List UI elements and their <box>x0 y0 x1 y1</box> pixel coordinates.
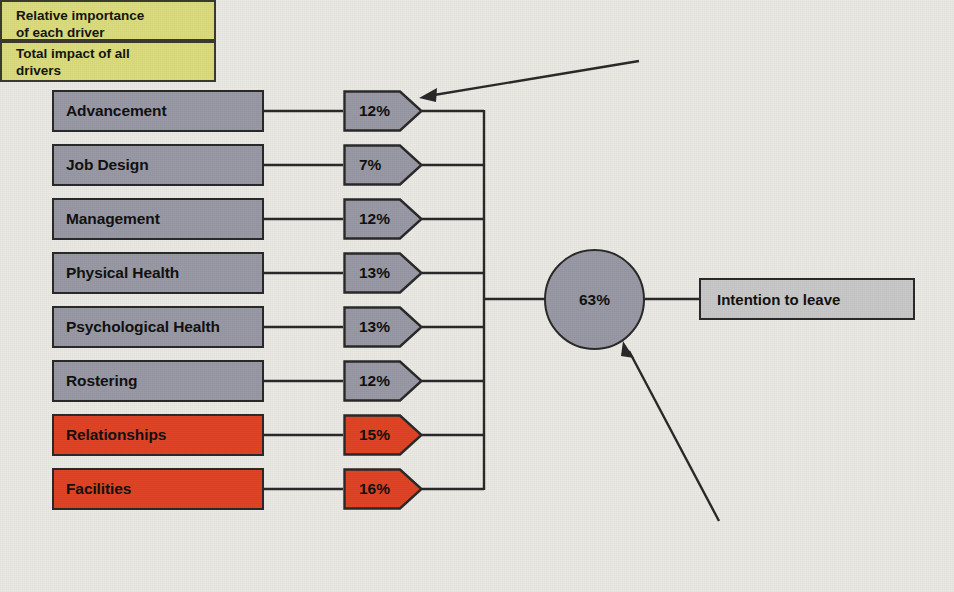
outcome-label: Intention to leave <box>717 291 840 308</box>
callout-leader-bottom <box>629 351 719 521</box>
percent-arrow-relationships[interactable]: 15% <box>343 414 423 456</box>
percent-arrow-job-design[interactable]: 7% <box>343 144 423 186</box>
driver-box-job-design[interactable]: Job Design <box>52 144 264 186</box>
percent-value: 15% <box>359 414 390 456</box>
percent-value: 12% <box>359 198 390 240</box>
total-impact-circle[interactable]: 63% <box>544 249 645 350</box>
diagram-canvas: Advancement Job Design Management Physic… <box>0 0 954 592</box>
percent-arrow-psychological-health[interactable]: 13% <box>343 306 423 348</box>
driver-label: Psychological Health <box>66 318 220 336</box>
total-impact-value: 63% <box>579 291 610 309</box>
driver-box-management[interactable]: Management <box>52 198 264 240</box>
outcome-box-intention-to-leave[interactable]: Intention to leave <box>699 278 915 320</box>
percent-value: 13% <box>359 252 390 294</box>
driver-box-physical-health[interactable]: Physical Health <box>52 252 264 294</box>
callout-arrowhead-bottom <box>621 341 634 358</box>
percent-value: 12% <box>359 90 390 132</box>
percent-arrow-rostering[interactable]: 12% <box>343 360 423 402</box>
percent-value: 12% <box>359 360 390 402</box>
driver-label: Management <box>66 210 160 228</box>
driver-label: Advancement <box>66 102 167 120</box>
percent-arrow-physical-health[interactable]: 13% <box>343 252 423 294</box>
callout-leader-top <box>428 61 639 96</box>
percent-arrow-management[interactable]: 12% <box>343 198 423 240</box>
percent-value: 13% <box>359 306 390 348</box>
driver-label: Physical Health <box>66 264 179 282</box>
percent-value: 7% <box>359 144 381 186</box>
driver-box-relationships[interactable]: Relationships <box>52 414 264 456</box>
pentagon-shape <box>343 144 423 186</box>
driver-box-rostering[interactable]: Rostering <box>52 360 264 402</box>
driver-label: Relationships <box>66 426 166 444</box>
percent-value: 16% <box>359 468 390 510</box>
percent-arrow-advancement[interactable]: 12% <box>343 90 423 132</box>
driver-box-facilities[interactable]: Facilities <box>52 468 264 510</box>
percent-arrow-facilities[interactable]: 16% <box>343 468 423 510</box>
driver-label: Rostering <box>66 372 137 390</box>
driver-label: Job Design <box>66 156 149 174</box>
driver-box-advancement[interactable]: Advancement <box>52 90 264 132</box>
driver-label: Facilities <box>66 480 131 498</box>
driver-box-psychological-health[interactable]: Psychological Health <box>52 306 264 348</box>
